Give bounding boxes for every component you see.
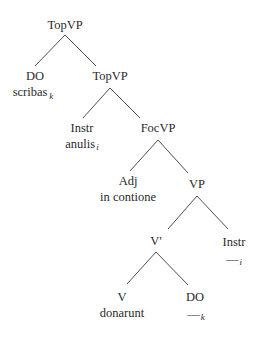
trace-index-i: i [239,257,242,267]
node-v-label: V [117,290,126,304]
edge-topvp-do [35,35,65,66]
word-anulis: anulis [65,137,95,151]
edge-focvp-adj [130,140,158,171]
node-do-trace: —k [186,307,206,322]
node-instr-label: Instr [71,121,95,135]
word-scribas: scribas [13,85,48,99]
node-instr-trace-label: Instr [223,235,247,249]
edge-vp-vbar [168,196,197,229]
node-do-word: scribask [13,85,55,101]
node-vp: VP [189,177,205,191]
trace-dash: — [186,307,200,321]
node-instr-trace: —i [225,252,243,267]
edge-vp-instr [197,196,228,229]
syntax-tree-diagram: TopVP DO scribask TopVP Instr anulisi Fo… [0,0,258,341]
node-do-label: DO [26,69,44,83]
edge-topvp-instr [83,88,110,118]
tree-edges [35,35,228,285]
node-adj-word: in contione [100,190,156,204]
edge-topvp-focvp [110,88,140,118]
node-vbar: V' [150,234,161,248]
edge-focvp-vp [158,140,188,173]
node-topvp-root: TopVP [47,18,82,32]
node-adj-label: Adj [119,174,138,188]
trace-index-k: k [201,312,206,322]
edge-vbar-v [127,252,156,284]
edge-vbar-do [156,252,188,285]
trace-dash: — [225,252,239,266]
edge-topvp-topvp [65,35,96,66]
node-instr-word: anulisi [65,137,99,152]
node-do-trace-label: DO [186,290,204,304]
index-k: k [49,91,54,101]
node-topvp-inner: TopVP [92,69,127,83]
node-v-word: donarunt [100,306,145,320]
node-focvp: FocVP [141,121,176,135]
index-i: i [96,142,99,152]
